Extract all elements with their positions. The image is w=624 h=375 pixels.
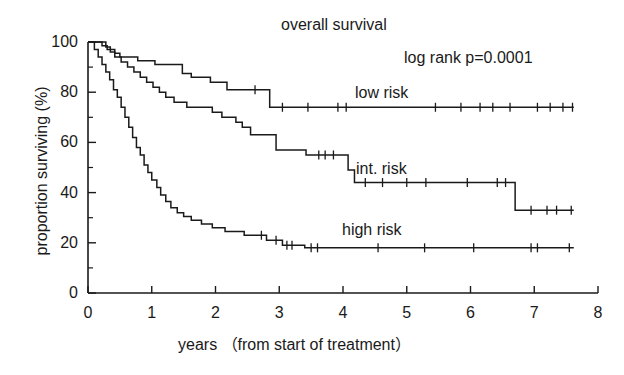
axes [88, 42, 598, 293]
curve-label-high-risk: high risk [342, 222, 402, 238]
x-tick-label: 8 [578, 305, 618, 321]
x-tick-label: 1 [132, 305, 172, 321]
survival-chart-figure: overall survival log rank p=0.0001 low r… [0, 0, 624, 375]
survival-curves [88, 42, 574, 252]
x-tick-label: 6 [451, 305, 491, 321]
chart-title: overall survival [281, 17, 387, 33]
x-tick-label: 3 [259, 305, 299, 321]
x-tick-label: 5 [387, 305, 427, 321]
x-tick-label: 0 [68, 305, 108, 321]
x-tick-label: 7 [514, 305, 554, 321]
curve-label-int-risk: int. risk [356, 161, 407, 177]
y-tick-label: 80 [30, 84, 78, 100]
survival-curve-int--risk [88, 42, 574, 210]
y-tick-label: 0 [30, 285, 78, 301]
y-tick-label: 100 [30, 34, 78, 50]
x-tick-label: 4 [323, 305, 363, 321]
survival-curve-high-risk [88, 42, 574, 248]
y-tick-label: 20 [30, 235, 78, 251]
y-tick-label: 40 [30, 185, 78, 201]
x-axis-title: years （from start of treatment） [178, 337, 411, 353]
log-rank-pvalue-annotation: log rank p=0.0001 [404, 50, 533, 66]
x-tick-label: 2 [196, 305, 236, 321]
curve-label-low-risk: low risk [355, 85, 408, 101]
y-tick-label: 60 [30, 134, 78, 150]
